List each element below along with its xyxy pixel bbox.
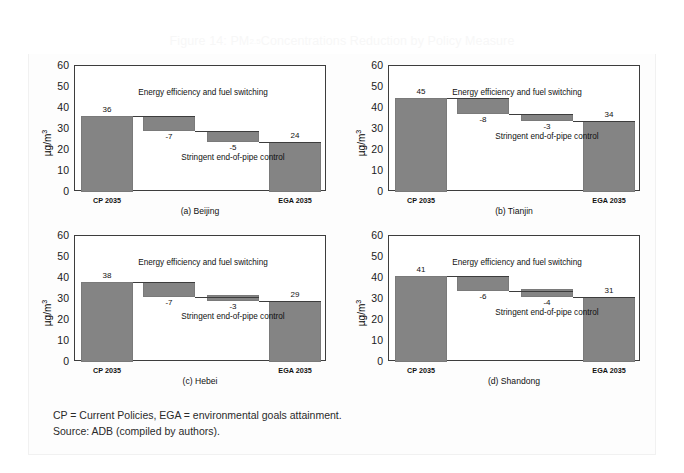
annotation-upper-b: Energy efficiency and fuel switching — [452, 88, 582, 97]
y-tick-c-50: 50 — [57, 250, 69, 262]
figure-title: Figure 14: PM2.5 Concentrations Reductio… — [28, 28, 656, 54]
x-tick-end-b: EGA 2035 — [592, 196, 625, 205]
connector-c-1 — [195, 297, 259, 298]
bar-value-c-2: -3 — [229, 302, 236, 311]
annotation-upper-a: Energy efficiency and fuel switching — [138, 88, 268, 97]
y-tick-d-10: 10 — [371, 334, 383, 346]
y-tick-a-10: 10 — [57, 164, 69, 176]
bar-value-a-1: -7 — [165, 132, 172, 141]
x-tick-start-d: CP 2035 — [407, 366, 435, 375]
y-tick-a-40: 40 — [57, 101, 69, 113]
y-tick-b-10: 10 — [371, 164, 383, 176]
y-tick-a-60: 60 — [57, 59, 69, 71]
y-tick-a-30: 30 — [57, 122, 69, 134]
y-axis-ticks-c: 6050403020100 — [46, 235, 72, 361]
y-tick-d-20: 20 — [371, 313, 383, 325]
y-tick-a-20: 20 — [57, 143, 69, 155]
bar-d-1 — [457, 276, 509, 291]
y-tick-b-40: 40 — [371, 101, 383, 113]
bar-value-c-0: 38 — [103, 271, 112, 280]
y-tick-c-20: 20 — [57, 313, 69, 325]
annotation-lower-a: Stringent end-of-pipe control — [181, 153, 284, 162]
connector-a-2 — [259, 142, 321, 143]
y-tick-a-0: 0 — [63, 185, 69, 197]
y-tick-d-0: 0 — [377, 355, 383, 367]
y-tick-d-40: 40 — [371, 271, 383, 283]
figure-title-suffix: Concentrations Reduction by Policy Measu… — [261, 34, 515, 48]
bar-value-b-1: -8 — [479, 115, 486, 124]
connector-b-1 — [509, 114, 573, 115]
bar-b-1 — [457, 98, 509, 115]
figure-page: Figure 14: PM2.5 Concentrations Reductio… — [0, 0, 684, 473]
y-tick-d-60: 60 — [371, 229, 383, 241]
x-tick-start-c: CP 2035 — [93, 366, 121, 375]
y-tick-a-50: 50 — [57, 80, 69, 92]
bar-a-1 — [143, 116, 195, 131]
plot-area-c: 38-7-329Energy efficiency and fuel switc… — [74, 235, 326, 361]
plot-area-b: 45-8-334Energy efficiency and fuel switc… — [388, 65, 640, 191]
y-tick-b-20: 20 — [371, 143, 383, 155]
y-tick-b-0: 0 — [377, 185, 383, 197]
footer-source: Source: ADB (compiled by authors). — [53, 423, 613, 439]
bar-c-0 — [81, 282, 133, 362]
charts-grid: µg/m3605040302010036-7-524Energy efficie… — [28, 58, 656, 398]
connector-c-2 — [259, 301, 321, 302]
chart-caption-c: (c) Hebei — [74, 376, 326, 386]
chart-panel-b: µg/m3605040302010045-8-334Energy efficie… — [342, 58, 656, 228]
y-tick-b-30: 30 — [371, 122, 383, 134]
connector-d-1 — [509, 291, 573, 292]
bar-value-d-0: 41 — [417, 265, 426, 274]
bar-value-d-1: -6 — [479, 292, 486, 301]
chart-caption-b: (b) Tianjin — [388, 206, 640, 216]
plot-area-a: 36-7-524Energy efficiency and fuel switc… — [74, 65, 326, 191]
bar-value-d-2: -4 — [543, 298, 550, 307]
bar-value-b-0: 45 — [417, 87, 426, 96]
connector-a-0 — [133, 116, 195, 117]
y-tick-c-10: 10 — [57, 334, 69, 346]
bar-a-2 — [207, 131, 259, 142]
chart-panel-d: µg/m3605040302010041-6-431Energy efficie… — [342, 228, 656, 398]
x-tick-start-a: CP 2035 — [93, 196, 121, 205]
bar-a-3 — [269, 142, 321, 192]
annotation-lower-b: Stringent end-of-pipe control — [495, 132, 598, 141]
bar-value-b-2: -3 — [543, 122, 550, 131]
connector-b-0 — [447, 98, 509, 99]
bar-d-0 — [395, 276, 447, 362]
connector-d-0 — [447, 276, 509, 277]
y-tick-d-50: 50 — [371, 250, 383, 262]
footer-abbreviations: CP = Current Policies, EGA = environment… — [53, 407, 613, 423]
x-tick-end-c: EGA 2035 — [278, 366, 311, 375]
y-axis-ticks-b: 6050403020100 — [360, 65, 386, 191]
y-tick-c-0: 0 — [63, 355, 69, 367]
bar-c-3 — [269, 301, 321, 362]
y-tick-c-60: 60 — [57, 229, 69, 241]
connector-a-1 — [195, 131, 259, 132]
chart-panel-a: µg/m3605040302010036-7-524Energy efficie… — [28, 58, 342, 228]
bar-value-a-2: -5 — [229, 143, 236, 152]
figure-title-prefix: Figure 14: PM — [170, 34, 250, 48]
bar-value-c-1: -7 — [165, 298, 172, 307]
annotation-upper-d: Energy efficiency and fuel switching — [452, 258, 582, 267]
x-tick-end-a: EGA 2035 — [278, 196, 311, 205]
x-tick-end-d: EGA 2035 — [592, 366, 625, 375]
bar-c-2 — [207, 295, 259, 301]
connector-b-2 — [573, 121, 635, 122]
bar-b-0 — [395, 98, 447, 193]
y-tick-d-30: 30 — [371, 292, 383, 304]
bar-a-0 — [81, 116, 133, 192]
bar-value-a-0: 36 — [103, 105, 112, 114]
y-tick-c-40: 40 — [57, 271, 69, 283]
y-tick-b-60: 60 — [371, 59, 383, 71]
annotation-lower-d: Stringent end-of-pipe control — [495, 308, 598, 317]
y-axis-ticks-a: 6050403020100 — [46, 65, 72, 191]
bar-c-1 — [143, 282, 195, 297]
connector-d-2 — [573, 297, 635, 298]
y-axis-ticks-d: 6050403020100 — [360, 235, 386, 361]
bar-value-b-3: 34 — [605, 110, 614, 119]
bar-value-a-3: 24 — [291, 131, 300, 140]
annotation-lower-c: Stringent end-of-pipe control — [181, 312, 284, 321]
x-tick-start-b: CP 2035 — [407, 196, 435, 205]
figure-title-subscript: 2.5 — [249, 37, 260, 46]
bar-d-3 — [583, 297, 635, 362]
y-tick-b-50: 50 — [371, 80, 383, 92]
